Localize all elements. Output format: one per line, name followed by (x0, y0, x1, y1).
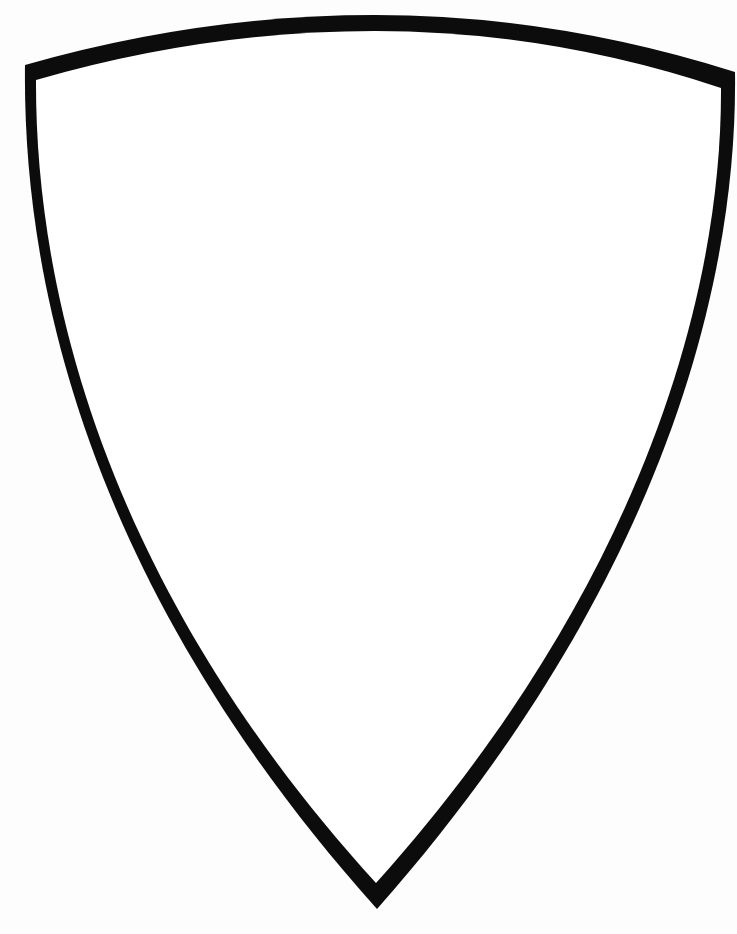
shield-icon (0, 0, 737, 934)
canvas (0, 0, 737, 934)
shield-field (36, 31, 721, 883)
